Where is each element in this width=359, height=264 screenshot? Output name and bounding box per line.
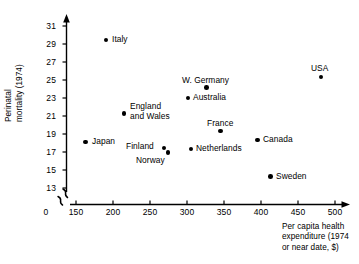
data-point-canada[interactable] [255,138,260,143]
data-point-england-and-wales[interactable] [122,111,127,116]
data-label-canada: Canada [263,134,293,144]
data-point-w-germany[interactable] [204,85,209,90]
x-tick-label: 400 [248,208,274,217]
data-label-france: France [207,118,233,128]
y-tick-label: 27 [34,58,56,67]
x-tick-label: 500 [322,208,348,217]
data-label-usa: USA [311,63,328,73]
scatter-plot: Perinatal mortality (1974) Per capita he… [0,0,359,264]
y-tick-label: 23 [34,94,56,103]
data-point-norway[interactable] [166,150,171,155]
x-tick-label: 250 [137,208,163,217]
data-label-japan: Japan [92,136,115,146]
y-tick-label: 25 [34,76,56,85]
data-label-italy: Italy [112,34,128,44]
x-tick-label: 300 [174,208,200,217]
y-axis-arrowhead [63,14,70,23]
y-tick-label: 19 [34,130,56,139]
y-tick-label: 21 [34,112,56,121]
x-tick-label: 0 [33,208,59,217]
x-axis-break-icon [58,197,63,206]
data-label-finland: Finland [126,141,154,151]
data-label-sweden: Sweden [276,171,307,181]
x-tick-label: 150 [63,208,89,217]
y-tick-label: 31 [34,22,56,31]
x-tick-label: 350 [211,208,237,217]
x-axis-arrowhead [342,201,351,208]
y-tick-label: 17 [34,148,56,157]
data-label-w-germany: W. Germany [182,75,229,85]
y-tick-label: 29 [34,40,56,49]
x-tick-label: 200 [100,208,126,217]
data-label-australia: Australia [193,92,226,102]
data-label-netherlands: Netherlands [196,143,242,153]
x-axis-title: Per capita health expenditure (1974 or n… [282,222,359,253]
data-point-france[interactable] [218,129,223,134]
x-tick-label: 450 [285,208,311,217]
data-label-norway: Norway [136,155,165,165]
y-axis-title-text: Perinatal mortality (1974) [4,30,25,122]
y-tick-label: 13 [34,184,56,193]
data-point-netherlands[interactable] [189,147,194,152]
data-label-england-and-wales: England and Wales [130,101,170,121]
y-tick-label: 15 [34,166,56,175]
data-point-sweden[interactable] [268,174,273,179]
